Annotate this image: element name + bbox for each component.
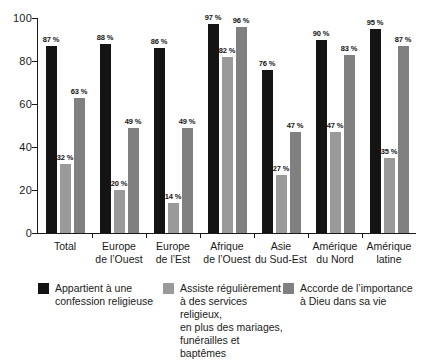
bars-layer: 87 %32 %63 %88 %20 %49 %86 %14 %49 %97 %… (38, 18, 416, 233)
bar: 82 % (222, 57, 233, 233)
bar-value-label: 20 % (111, 180, 128, 188)
y-tick-mark (32, 233, 38, 234)
bar: 49 % (182, 128, 193, 233)
x-tick-mark (92, 234, 93, 238)
y-tick-label: 100 (13, 13, 32, 24)
x-tick-mark (254, 234, 255, 238)
bar-value-label: 96 % (233, 17, 250, 25)
chart-legend: Appartient à uneconfession religieuseAss… (0, 282, 421, 346)
bar-value-label: 47 % (287, 122, 304, 130)
bar-value-label: 63 % (71, 88, 88, 96)
x-label-line-2: du Nord (308, 253, 362, 266)
bar: 95 % (370, 29, 381, 233)
bar: 87 % (398, 46, 409, 233)
x-label-line-2: de l’Est (146, 253, 200, 266)
x-tick-mark (308, 234, 309, 238)
bar-value-label: 90 % (313, 30, 330, 38)
bar: 96 % (236, 27, 247, 233)
y-tick-label: 20 (19, 185, 32, 196)
legend-item[interactable]: Assiste régulièrementà des services reli… (163, 282, 288, 360)
x-label-line-1: Europe (156, 240, 190, 252)
legend-swatch-icon (163, 283, 174, 294)
bar-group: 76 %27 %47 % (254, 18, 308, 233)
bar: 20 % (114, 190, 125, 233)
x-axis-category-label: Europede l’Ouest (92, 240, 146, 266)
x-axis-category-label: Amériquedu Nord (308, 240, 362, 266)
bar-group: 90 %47 %83 % (308, 18, 362, 233)
x-axis-category-label: Asiedu Sud-Est (254, 240, 308, 266)
x-axis-category-label: Amériquelatine (362, 240, 416, 266)
x-tick-mark (362, 234, 363, 238)
bar-value-label: 27 % (273, 165, 290, 173)
bar: 87 % (46, 46, 57, 233)
bar: 90 % (316, 40, 327, 234)
x-axis-category-label: Europede l’Est (146, 240, 200, 266)
bar: 27 % (276, 175, 287, 233)
bar-value-label: 82 % (219, 47, 236, 55)
legend-item[interactable]: Accorde de l’importanceà Dieu dans sa vi… (283, 282, 418, 308)
bar-value-label: 83 % (341, 45, 358, 53)
bar-group: 97 %82 %96 % (200, 18, 254, 233)
bar: 97 % (208, 24, 219, 233)
x-tick-mark (146, 234, 147, 238)
legend-label: Assiste régulièrementà des services reli… (180, 282, 288, 360)
bar-group: 87 %32 %63 % (38, 18, 92, 233)
bar: 86 % (154, 48, 165, 233)
bar-value-label: 95 % (367, 19, 384, 27)
bar: 32 % (60, 164, 71, 233)
plot-area: 100806040200 87 %32 %63 %88 %20 %49 %86 … (0, 0, 421, 250)
x-label-line-1: Afrique (210, 240, 243, 252)
bar-value-label: 86 % (151, 38, 168, 46)
legend-label: Accorde de l’importanceà Dieu dans sa vi… (300, 282, 413, 308)
x-tick-mark (200, 234, 201, 238)
bar-value-label: 49 % (179, 118, 196, 126)
x-axis-category-label: Afriquede l’Ouest (200, 240, 254, 266)
legend-swatch-icon (38, 283, 49, 294)
y-tick-label: 60 (19, 99, 32, 110)
bar: 35 % (384, 158, 395, 233)
bar: 47 % (330, 132, 341, 233)
bar-value-label: 14 % (165, 193, 182, 201)
legend-swatch-icon (283, 283, 294, 294)
y-tick-label: 80 (19, 56, 32, 67)
x-label-line-1: Amérique (367, 240, 412, 252)
bar: 63 % (74, 98, 85, 233)
y-tick-label: 40 (19, 142, 32, 153)
bar-value-label: 97 % (205, 14, 222, 22)
x-axis-category-label: Total (38, 240, 92, 253)
x-axis-category-labels: TotalEuropede l’OuestEuropede l’EstAfriq… (38, 240, 416, 280)
bar-value-label: 35 % (381, 148, 398, 156)
bar-value-label: 49 % (125, 118, 142, 126)
bar-value-label: 76 % (259, 60, 276, 68)
x-label-line-2: latine (362, 253, 416, 266)
y-axis-tick-labels: 100806040200 (0, 18, 32, 233)
bar-value-label: 87 % (395, 36, 412, 44)
bar: 14 % (168, 203, 179, 233)
bar: 76 % (262, 70, 273, 233)
bar-group: 88 %20 %49 % (92, 18, 146, 233)
bar-value-label: 88 % (97, 34, 114, 42)
x-label-line-2: de l’Ouest (92, 253, 146, 266)
x-label-line-1: Total (54, 240, 76, 252)
x-label-line-1: Asie (271, 240, 291, 252)
bar-group: 86 %14 %49 % (146, 18, 200, 233)
bar: 83 % (344, 55, 355, 233)
bar: 88 % (100, 44, 111, 233)
bar-value-label: 87 % (43, 36, 60, 44)
bar-value-label: 47 % (327, 122, 344, 130)
bar: 47 % (290, 132, 301, 233)
x-label-line-2: du Sud-Est (254, 253, 308, 266)
bar-group: 95 %35 %87 % (362, 18, 416, 233)
x-label-line-1: Europe (102, 240, 136, 252)
x-label-line-2: de l’Ouest (200, 253, 254, 266)
legend-label: Appartient à uneconfession religieuse (55, 282, 153, 308)
x-axis-line (37, 233, 416, 234)
bar: 49 % (128, 128, 139, 233)
bar-value-label: 32 % (57, 154, 74, 162)
x-label-line-1: Amérique (313, 240, 358, 252)
legend-item[interactable]: Appartient à uneconfession religieuse (38, 282, 158, 308)
